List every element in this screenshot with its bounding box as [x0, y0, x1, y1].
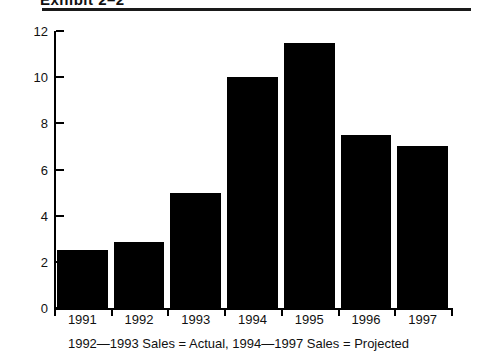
x-axis-tick [451, 308, 453, 316]
y-axis-tick-label: 10 [34, 70, 48, 85]
bar [114, 242, 165, 308]
y-axis-tick [56, 30, 64, 32]
chart-caption: 1992—1993 Sales = Actual, 1994—1997 Sale… [0, 336, 477, 351]
y-axis-tick-label: 0 [41, 301, 48, 316]
x-axis-tick-label: 1993 [181, 312, 210, 327]
bar [284, 43, 335, 308]
y-axis-tick [56, 169, 64, 171]
x-axis-tick-label: 1997 [408, 312, 437, 327]
bar [57, 250, 108, 308]
title-divider [42, 8, 471, 11]
y-axis-tick [56, 215, 64, 217]
y-axis-tick [56, 76, 64, 78]
exhibit-title: Exhibit 2–2 [40, 0, 125, 8]
bar [397, 146, 448, 308]
x-axis-tick-label: 1992 [125, 312, 154, 327]
x-axis-tick-label: 1991 [68, 312, 97, 327]
bar-chart-plot-area: 024681012 [54, 31, 451, 308]
bar [170, 193, 221, 308]
x-axis-tick-label: 1995 [295, 312, 324, 327]
bar [341, 135, 392, 308]
y-axis-tick-label: 6 [41, 162, 48, 177]
x-axis-tick-label: 1996 [351, 312, 380, 327]
y-axis-tick-label: 12 [34, 24, 48, 39]
x-axis-line [54, 308, 453, 310]
y-axis-tick-label: 2 [41, 254, 48, 269]
y-axis-tick [56, 122, 64, 124]
bar [227, 77, 278, 308]
x-axis-labels: 1991199219931994199519961997 [54, 312, 451, 332]
x-axis-tick-label: 1994 [238, 312, 267, 327]
y-axis-tick-label: 4 [41, 208, 48, 223]
exhibit-figure: Exhibit 2–2 024681012 199119921993199419… [0, 0, 477, 364]
y-axis-tick-label: 8 [41, 116, 48, 131]
